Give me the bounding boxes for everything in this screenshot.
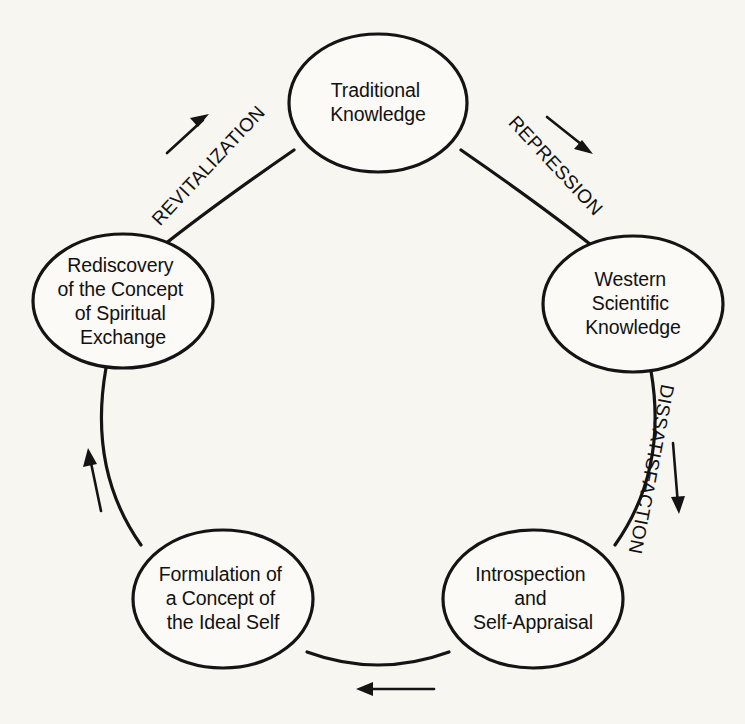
node-label-western-scientific-knowledge: Western Scientific Knowledge (585, 268, 681, 338)
node-line: of Spiritual (75, 302, 166, 324)
cycle-diagram: Traditional Knowledge Western Scientific… (0, 0, 745, 724)
node-label-formulation-of-a-concept-of-the-ideal-self: Formulation of a Concept of the Ideal Se… (159, 563, 288, 633)
node-line: Knowledge (330, 103, 426, 125)
node-line: a Concept of (166, 587, 276, 609)
edge-label-dissatisfaction: DISSATISFACTION (625, 383, 678, 556)
bottom-arrow (356, 682, 434, 696)
arc-introspection-to-formulation (307, 652, 449, 665)
node-line: Rediscovery (67, 254, 174, 276)
diagram-canvas: Traditional Knowledge Western Scientific… (0, 0, 745, 724)
arc-formulation-to-rediscovery (101, 368, 141, 545)
revitalization-arrow (167, 114, 209, 153)
left-arrow (83, 448, 101, 511)
node-shapes (33, 34, 723, 668)
dissatisfaction-arrow (671, 443, 685, 514)
node-line: Knowledge (585, 316, 681, 338)
node-line: of the Concept (58, 278, 184, 300)
edge-label-repression: REPRESSION (505, 112, 607, 220)
node-line: Exchange (80, 326, 166, 348)
node-line: the Ideal Self (167, 611, 280, 633)
node-line: Self-Appraisal (473, 611, 593, 633)
node-line: Introspection (475, 563, 585, 585)
node-line: Traditional (331, 79, 420, 101)
node-line: Formulation of (159, 563, 283, 585)
node-line: Scientific (592, 292, 669, 314)
node-line: Western (595, 268, 667, 290)
node-line: and (514, 587, 546, 609)
